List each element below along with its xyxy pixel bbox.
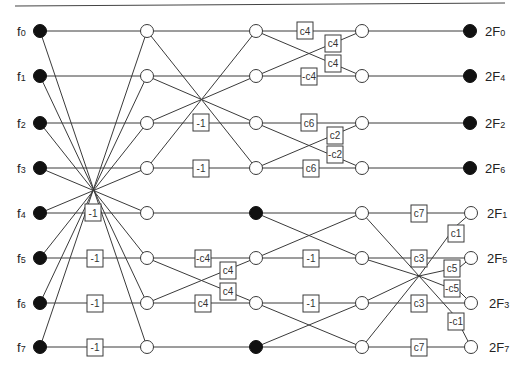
output-node-4	[465, 207, 478, 220]
svg-text:c4: c4	[223, 286, 234, 297]
stage1-multipliers: -1 -1 -1 -1	[85, 204, 103, 356]
output-node-3	[464, 162, 477, 175]
multiplier-box: c7	[411, 205, 427, 222]
output-nodes	[464, 25, 478, 354]
output-node-5	[465, 252, 478, 265]
svg-text:-1: -1	[197, 118, 206, 129]
multiplier-box: c6	[303, 160, 319, 177]
svg-text:c6: c6	[304, 118, 315, 129]
input-node-7	[34, 341, 47, 354]
input-label-6: f6	[17, 296, 26, 311]
multiplier-box: c4	[220, 262, 236, 279]
svg-text:-1: -1	[91, 253, 100, 264]
svg-text:c4: c4	[198, 298, 209, 309]
input-label-0: f0	[17, 24, 26, 39]
svg-text:c7: c7	[414, 342, 425, 353]
output-labels: 2F0 2F4 2F2 2F6 2F1 2F5 2F3 2F7	[485, 24, 509, 355]
svg-text:c7: c7	[414, 208, 425, 219]
output-label-3: 2F6	[485, 161, 505, 176]
multiplier-box: c4	[220, 283, 236, 300]
multiplier-box: c7	[411, 339, 427, 356]
output-label-7: 2F7	[489, 340, 509, 355]
output-node-0	[464, 25, 477, 38]
input-node-5	[34, 252, 47, 265]
multiplier-box: -c1	[448, 313, 464, 330]
output-label-1: 2F4	[485, 69, 505, 84]
multiplier-box: c2	[327, 127, 343, 144]
output-label-6: 2F3	[489, 296, 509, 311]
svg-text:-c2: -c2	[328, 149, 342, 160]
multiplier-box: -c2	[327, 146, 343, 163]
input-node-2	[34, 117, 47, 130]
svg-text:-1: -1	[91, 342, 100, 353]
input-label-2: f2	[17, 116, 26, 131]
output-label-5: 2F5	[487, 251, 507, 266]
svg-text:-1: -1	[89, 208, 98, 219]
multiplier-box: -1	[303, 295, 319, 312]
svg-text:c5: c5	[447, 263, 458, 274]
svg-text:-1: -1	[307, 253, 316, 264]
multiplier-box: c5	[444, 260, 460, 277]
output-node-1	[464, 70, 477, 83]
multiplier-box: c1	[448, 225, 464, 242]
multiplier-box: -c4	[301, 68, 317, 85]
input-labels: f0 f1 f2 f3 f4 f5 f6 f7	[17, 24, 26, 355]
output-node-2	[464, 117, 477, 130]
multiplier-box: c4	[325, 35, 341, 52]
multiplier-box: -1	[87, 250, 103, 267]
multiplier-box: c6	[301, 114, 317, 131]
multiplier-box: c4	[195, 295, 211, 312]
multiplier-box: c3	[411, 295, 427, 312]
svg-text:c3: c3	[414, 298, 425, 309]
multiplier-box: -c4	[195, 250, 211, 267]
multiplier-box: c4	[325, 55, 341, 72]
dct-flow-graph: -1 -1 -1 -1 -1 -1 -c4 c4 c4 c4 c4 c4 c4 …	[0, 0, 522, 371]
input-node-4	[34, 207, 47, 220]
top-rule	[15, 3, 505, 6]
column-b-nodes	[250, 25, 263, 354]
input-label-3: f3	[17, 161, 26, 176]
svg-text:c4: c4	[300, 26, 311, 37]
input-nodes	[34, 25, 47, 354]
svg-text:c6: c6	[306, 163, 317, 174]
input-label-4: f4	[17, 206, 26, 221]
output-label-4: 2F1	[487, 206, 507, 221]
multiplier-box: -1	[87, 339, 103, 356]
input-node-1	[34, 70, 47, 83]
input-label-1: f1	[17, 69, 26, 84]
input-label-7: f7	[17, 340, 26, 355]
input-node-3	[34, 162, 47, 175]
svg-text:-1: -1	[91, 298, 100, 309]
multiplier-box: c4	[297, 22, 313, 39]
svg-text:-1: -1	[307, 298, 316, 309]
multiplier-box: -1	[87, 295, 103, 312]
input-node-6	[34, 297, 47, 310]
svg-text:c4: c4	[328, 38, 339, 49]
column-a-nodes	[141, 25, 154, 354]
multiplier-box: -1	[303, 250, 319, 267]
svg-text:-c4: -c4	[196, 253, 210, 264]
svg-text:c3: c3	[414, 253, 425, 264]
stage3-multipliers: c4 c4 c4 -c4 c6 c2 -c2 c6 -1 -1	[297, 22, 343, 312]
input-node-0	[34, 25, 47, 38]
multiplier-box: -1	[193, 114, 209, 131]
multiplier-box: -c5	[444, 280, 460, 297]
svg-text:c2: c2	[330, 130, 341, 141]
output-node-6	[465, 297, 478, 310]
svg-text:c4: c4	[328, 58, 339, 69]
stage4-multipliers: c7 c1 c3 c5 -c5 c3 -c1 c7	[411, 205, 464, 356]
multiplier-box: -1	[85, 204, 101, 221]
output-label-2: 2F2	[485, 116, 505, 131]
svg-text:c4: c4	[223, 265, 234, 276]
multiplier-box: -1	[193, 160, 209, 177]
svg-text:-c1: -c1	[449, 316, 463, 327]
svg-text:-c4: -c4	[302, 71, 316, 82]
svg-text:-c5: -c5	[445, 283, 459, 294]
output-node-7	[465, 341, 478, 354]
svg-text:c1: c1	[451, 228, 462, 239]
column-c-nodes	[356, 25, 369, 354]
multiplier-box: c3	[411, 250, 427, 267]
input-label-5: f5	[17, 251, 26, 266]
svg-text:-1: -1	[197, 163, 206, 174]
output-label-0: 2F0	[485, 24, 505, 39]
